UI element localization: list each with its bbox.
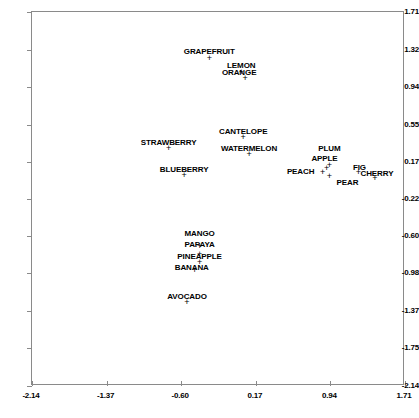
x-axis-tick (107, 381, 108, 386)
data-point-label: PEAR (337, 178, 359, 187)
data-point-label: WATERMELON (221, 144, 277, 153)
y-axis-tick (27, 348, 32, 349)
y-axis-tick-label: -1.75 (396, 343, 419, 352)
y-axis-tick (27, 199, 32, 200)
x-axis-tick-label: -1.37 (97, 391, 114, 400)
data-point-label: BANANA (175, 263, 209, 272)
plot-area: GRAPEFRUITLEMONORANGECANTELOPEWATERMELON… (31, 11, 404, 385)
y-axis-tick-label: -1.37 (396, 306, 419, 315)
y-axis-tick-label: -0.60 (396, 231, 419, 240)
data-point-label: PEACH (287, 167, 315, 176)
x-axis-tick-label: 1.71 (397, 391, 412, 400)
data-point-label: BLUEBERRY (160, 165, 209, 174)
data-point-label: CHERRY (361, 169, 394, 178)
y-axis-tick-label: 0.94 (396, 81, 419, 90)
x-axis-tick (32, 381, 33, 386)
y-axis-tick (27, 273, 32, 274)
y-axis-tick (27, 386, 32, 387)
x-axis-tick-label: 0.94 (322, 391, 337, 400)
y-axis-tick-label: 1.32 (396, 44, 419, 53)
data-point-label: CANTELOPE (219, 127, 267, 136)
y-axis-tick (27, 311, 32, 312)
data-point-label: PINEAPPLE (177, 252, 221, 261)
y-axis-tick (27, 125, 32, 126)
y-axis-tick-label: -0.98 (396, 268, 419, 277)
data-point-label: GRAPEFRUIT (184, 47, 235, 56)
y-axis-tick-label: 0.17 (396, 156, 419, 165)
data-point-label: STRAWBERRY (141, 138, 197, 147)
y-axis-tick (27, 50, 32, 51)
y-axis-tick-label: -0.22 (396, 194, 419, 203)
y-axis-tick (27, 12, 32, 13)
data-point-label: APPLE (311, 154, 337, 163)
x-axis-tick-label: 0.17 (247, 391, 262, 400)
y-axis-tick-label: 1.71 (396, 7, 419, 16)
y-axis-tick (27, 162, 32, 163)
x-axis-tick (330, 381, 331, 386)
x-axis-tick (181, 381, 182, 386)
data-point-label: PAPAYA (185, 240, 215, 249)
data-point-label: AVOCADO (167, 292, 207, 301)
x-axis-tick-label: -2.14 (22, 391, 39, 400)
y-axis-tick (27, 236, 32, 237)
data-point-label: PLUM (318, 144, 340, 153)
y-axis-tick-label: 0.55 (396, 119, 419, 128)
data-point-label: ORANGE (222, 68, 257, 77)
y-axis-tick (27, 87, 32, 88)
scatter-chart: GRAPEFRUITLEMONORANGECANTELOPEWATERMELON… (0, 0, 419, 418)
x-axis-tick-label: -0.60 (172, 391, 189, 400)
data-point-label: MANGO (185, 229, 215, 238)
y-axis-tick-label: -2.14 (396, 381, 419, 390)
x-axis-tick (256, 381, 257, 386)
plus-marker-icon (326, 173, 333, 180)
